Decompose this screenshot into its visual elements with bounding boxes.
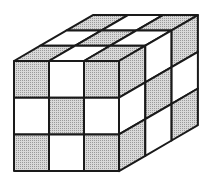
front-cell [49, 61, 84, 98]
front-cell [49, 98, 84, 135]
front-cell [14, 98, 49, 135]
front-cell [49, 134, 84, 171]
front-cell [84, 134, 119, 171]
cube-figure [0, 0, 212, 183]
front-face [14, 61, 119, 171]
cube-diagram [0, 0, 212, 183]
front-cell [84, 98, 119, 135]
front-cell [14, 134, 49, 171]
front-cell [84, 61, 119, 98]
front-cell [14, 61, 49, 98]
